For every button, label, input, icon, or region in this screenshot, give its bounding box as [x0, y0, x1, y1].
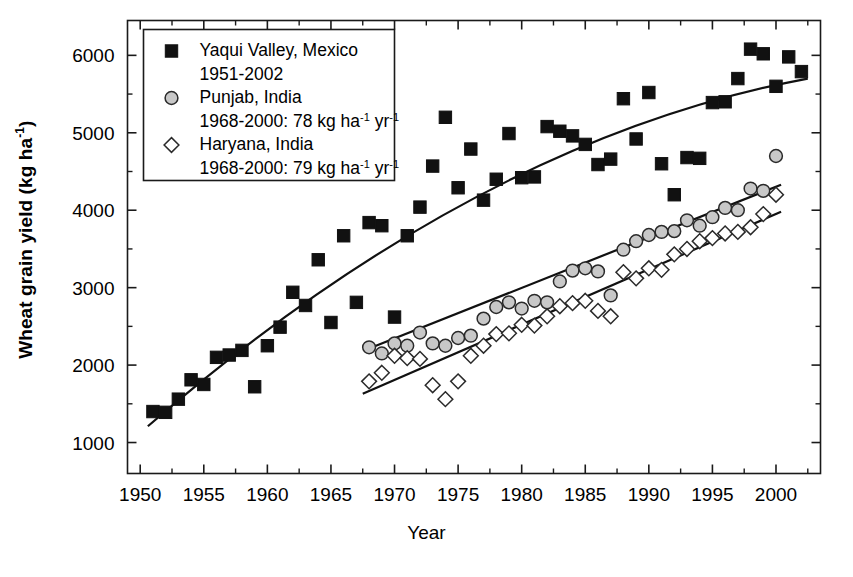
y-tick-label: 4000 — [72, 200, 114, 221]
data-point-filled-square — [439, 111, 451, 123]
data-point-open-diamond — [756, 207, 771, 222]
data-point-open-diamond — [362, 374, 377, 389]
data-point-filled-square — [325, 316, 337, 328]
data-point-filled-square — [198, 378, 210, 390]
data-point-filled-circle — [731, 204, 744, 217]
data-point-filled-circle — [592, 265, 605, 278]
data-point-filled-circle — [693, 219, 706, 232]
data-point-filled-circle — [375, 347, 388, 360]
x-tick-label: 1985 — [564, 484, 606, 505]
data-point-filled-square — [694, 152, 706, 164]
data-point-filled-circle — [617, 243, 630, 256]
data-point-filled-square — [363, 216, 375, 228]
data-point-filled-square — [630, 133, 642, 145]
data-point-filled-square — [159, 406, 171, 418]
data-point-filled-square — [783, 51, 795, 63]
x-tick-label: 1960 — [246, 484, 288, 505]
data-point-filled-square — [503, 127, 515, 139]
y-tick-label: 5000 — [72, 123, 114, 144]
data-point-filled-square — [566, 130, 578, 142]
data-point-open-diamond — [463, 348, 478, 363]
data-point-filled-square — [426, 160, 438, 172]
data-point-filled-circle — [744, 182, 757, 195]
data-point-filled-square — [744, 43, 756, 55]
data-point-filled-circle — [452, 332, 465, 345]
data-point-filled-square — [490, 173, 502, 185]
data-point-open-diamond — [641, 261, 656, 276]
data-point-filled-square — [719, 96, 731, 108]
legend-marker-filled-circle — [165, 92, 178, 105]
data-point-filled-circle — [528, 294, 541, 307]
data-point-filled-square — [350, 296, 362, 308]
data-point-filled-circle — [553, 275, 566, 288]
legend-label-line2: 1968-2000: 79 kg ha-1 yr-1 — [200, 158, 400, 178]
legend-label-line1: Haryana, India — [200, 134, 314, 154]
data-point-filled-circle — [541, 296, 554, 309]
data-point-filled-circle — [490, 301, 503, 314]
x-tick-label: 1965 — [310, 484, 352, 505]
data-point-filled-square — [452, 182, 464, 194]
data-point-filled-square — [312, 254, 324, 266]
data-point-filled-circle — [604, 289, 617, 302]
legend-label-line2: 1968-2000: 78 kg ha-1 yr-1 — [200, 111, 400, 131]
x-tick-label: 1990 — [628, 484, 670, 505]
x-tick-label: 1975 — [437, 484, 479, 505]
data-point-filled-circle — [414, 326, 427, 339]
y-tick-label: 3000 — [72, 278, 114, 299]
data-point-filled-square — [795, 65, 807, 77]
data-point-filled-circle — [655, 226, 668, 239]
y-tick-label: 1000 — [72, 433, 114, 454]
data-point-filled-circle — [439, 339, 452, 352]
x-tick-label: 1980 — [501, 484, 543, 505]
data-point-filled-square — [210, 351, 222, 363]
legend-marker-filled-square — [165, 45, 177, 57]
data-point-filled-square — [388, 311, 400, 323]
data-point-open-diamond — [425, 378, 440, 393]
data-point-filled-circle — [579, 262, 592, 275]
data-point-open-diamond — [654, 262, 669, 277]
data-point-filled-circle — [503, 296, 516, 309]
data-point-filled-square — [223, 349, 235, 361]
scatter-plot: 1950195519601965197019751980198519901995… — [0, 0, 853, 577]
data-point-filled-square — [604, 153, 616, 165]
data-point-filled-circle — [630, 235, 643, 248]
data-point-filled-square — [617, 93, 629, 105]
data-point-filled-square — [401, 230, 413, 242]
data-point-filled-square — [579, 138, 591, 150]
data-point-open-diamond — [413, 351, 428, 366]
data-point-filled-square — [274, 321, 286, 333]
data-point-filled-square — [541, 120, 553, 132]
data-point-filled-circle — [719, 201, 732, 214]
data-point-filled-square — [172, 393, 184, 405]
data-point-filled-circle — [515, 302, 528, 315]
legend-label-line1: Yaqui Valley, Mexico — [200, 40, 359, 60]
data-point-filled-square — [770, 80, 782, 92]
data-point-filled-square — [668, 189, 680, 201]
data-point-open-diamond — [387, 348, 402, 363]
y-tick-label: 6000 — [72, 45, 114, 66]
y-tick-label: 2000 — [72, 355, 114, 376]
data-point-filled-square — [528, 171, 540, 183]
data-point-filled-square — [248, 381, 260, 393]
data-point-filled-square — [376, 220, 388, 232]
data-point-filled-circle — [668, 225, 681, 238]
x-tick-label: 2000 — [755, 484, 797, 505]
data-point-filled-square — [643, 86, 655, 98]
data-point-filled-square — [185, 374, 197, 386]
data-point-open-diamond — [374, 365, 389, 380]
data-point-filled-circle — [426, 337, 439, 350]
data-point-open-diamond — [451, 374, 466, 389]
data-point-filled-circle — [363, 341, 376, 354]
legend-label-line2: 1951-2002 — [200, 64, 284, 84]
data-point-open-diamond — [438, 392, 453, 407]
data-point-filled-square — [299, 299, 311, 311]
data-point-filled-square — [236, 344, 248, 356]
data-point-filled-square — [592, 158, 604, 170]
data-point-open-diamond — [565, 296, 580, 311]
data-point-filled-square — [147, 405, 159, 417]
data-point-filled-square — [681, 151, 693, 163]
data-point-filled-square — [732, 72, 744, 84]
data-point-filled-square — [261, 340, 273, 352]
x-tick-label: 1955 — [183, 484, 225, 505]
legend-label-line1: Punjab, India — [200, 87, 302, 107]
